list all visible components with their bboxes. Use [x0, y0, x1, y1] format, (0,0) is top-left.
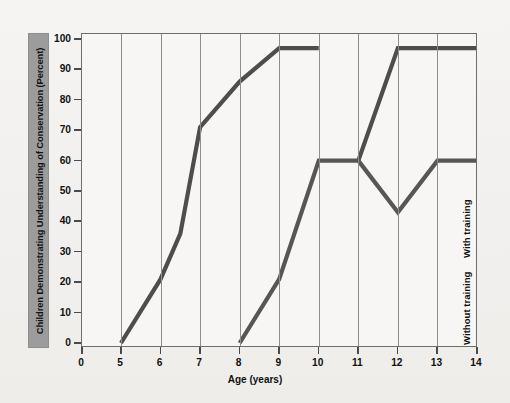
y-tick-0 [74, 342, 81, 344]
y-tick-10 [74, 312, 81, 314]
x-tick-12 [397, 347, 399, 354]
gridline-x-11 [358, 34, 359, 346]
x-tick-10 [318, 347, 320, 354]
x-tick-11 [357, 347, 359, 354]
y-tick-label-70: 70 [43, 124, 71, 135]
x-tick-13 [436, 347, 438, 354]
y-tick-label-20: 20 [43, 276, 71, 287]
y-tick-80 [74, 99, 81, 101]
x-tick-label-8: 8 [236, 357, 242, 368]
gridline-x-6 [161, 34, 162, 346]
y-tick-label-90: 90 [43, 63, 71, 74]
x-tick-label-12: 12 [391, 357, 402, 368]
x-tick-label-5: 5 [117, 357, 123, 368]
x-tick-label-14: 14 [470, 357, 481, 368]
gridline-x-8 [240, 34, 241, 346]
line-with-training-continued [358, 48, 476, 160]
y-tick-label-80: 80 [43, 93, 71, 104]
x-tick-label-0: 0 [78, 357, 84, 368]
y-tick-40 [74, 220, 81, 222]
plot-inner [82, 34, 476, 346]
x-tick-label-11: 11 [352, 357, 363, 368]
y-tick-label-30: 30 [43, 245, 71, 256]
y-tick-label-100: 100 [43, 33, 71, 44]
gridline-x-13 [437, 34, 438, 346]
gridline-x-9 [279, 34, 280, 346]
series-label-without-training: Without training [461, 272, 472, 345]
y-tick-label-50: 50 [43, 185, 71, 196]
x-tick-9 [278, 347, 280, 354]
y-tick-100 [74, 38, 81, 40]
x-axis-title: Age (years) [0, 374, 510, 385]
y-tick-label-60: 60 [43, 154, 71, 165]
series-label-with-training: With training [461, 199, 472, 258]
y-tick-label-0: 0 [43, 337, 71, 348]
gridline-x-10 [319, 34, 320, 346]
x-tick-7 [199, 347, 201, 354]
y-tick-label-10: 10 [43, 306, 71, 317]
x-tick-8 [239, 347, 241, 354]
y-tick-70 [74, 129, 81, 131]
x-tick-label-6: 6 [157, 357, 163, 368]
gridline-x-5 [121, 34, 122, 346]
x-tick-label-10: 10 [312, 357, 323, 368]
x-tick-0 [81, 347, 83, 354]
plot-area [81, 33, 477, 347]
x-tick-label-7: 7 [196, 357, 202, 368]
gridline-x-12 [398, 34, 399, 346]
y-tick-label-40: 40 [43, 215, 71, 226]
x-tick-14 [476, 347, 478, 354]
y-tick-50 [74, 190, 81, 192]
x-tick-label-9: 9 [275, 357, 281, 368]
y-tick-60 [74, 160, 81, 162]
x-tick-label-13: 13 [431, 357, 442, 368]
y-tick-90 [74, 68, 81, 70]
y-tick-30 [74, 251, 81, 253]
gridline-x-7 [200, 34, 201, 346]
y-tick-20 [74, 281, 81, 283]
x-tick-5 [120, 347, 122, 354]
chart-figure: Children Demonstrating Understanding of … [0, 0, 510, 403]
x-tick-6 [160, 347, 162, 354]
line-with-training [121, 48, 319, 343]
